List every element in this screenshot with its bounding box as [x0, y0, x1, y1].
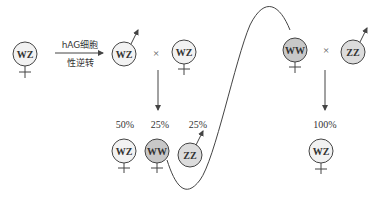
- cross-symbol-left: ×: [153, 47, 159, 59]
- svg-text:hAG细胞: hAG细胞: [62, 39, 99, 50]
- svg-text:WW: WW: [285, 45, 305, 56]
- svg-text:性逆转: 性逆转: [67, 57, 94, 68]
- svg-text:WZ: WZ: [116, 146, 133, 157]
- cross-symbol-right: ×: [323, 44, 329, 56]
- parent-zz-male: ZZ: [341, 28, 367, 64]
- offspring-zz-male: ZZ: [178, 131, 203, 167]
- svg-text:WW: WW: [147, 146, 167, 157]
- parent-ww-female: WW: [283, 38, 307, 73]
- offspring-ww-female: WW: [145, 139, 169, 173]
- pct-zz: 25%: [189, 119, 207, 130]
- offspring-wz-female: WZ: [112, 139, 136, 173]
- svg-text:WZ: WZ: [116, 49, 133, 60]
- pct-right-wz: 100%: [313, 119, 336, 130]
- offspring-right-wz-female: WZ: [309, 139, 333, 174]
- parent-wz-male: WZ: [112, 30, 138, 66]
- svg-text:WZ: WZ: [17, 49, 34, 60]
- svg-text:WZ: WZ: [313, 146, 330, 157]
- sex-reversal-arrow: hAG细胞 性逆转: [55, 39, 103, 68]
- pct-ww: 25%: [151, 119, 169, 130]
- svg-text:ZZ: ZZ: [346, 47, 360, 58]
- breeding-diagram: WZ hAG细胞 性逆转 WZ × WZ 50% 25% 25% WZ WW: [0, 0, 376, 199]
- svg-text:ZZ: ZZ: [183, 150, 197, 161]
- svg-text:WZ: WZ: [176, 47, 193, 58]
- parent-wz-female: WZ: [172, 40, 196, 75]
- parent-wz-female-original: WZ: [13, 42, 37, 78]
- pct-wz: 50%: [116, 119, 134, 130]
